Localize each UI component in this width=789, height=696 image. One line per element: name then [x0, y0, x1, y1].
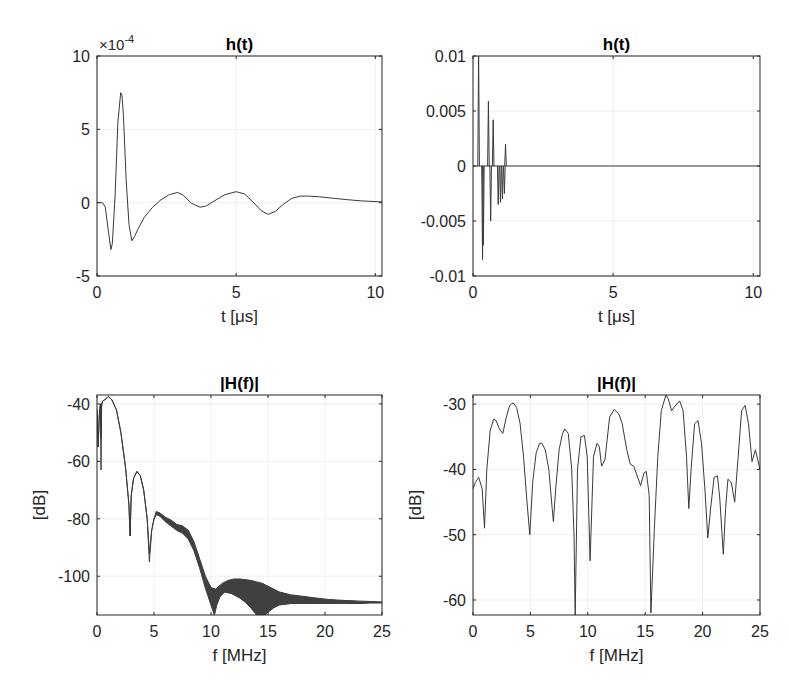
- x-tick-label: 25: [373, 623, 391, 640]
- stem: [497, 166, 499, 205]
- subplot-title: h(t): [603, 35, 630, 54]
- x-tick-label: 10: [202, 623, 220, 640]
- x-tick-label: 5: [232, 284, 241, 301]
- subplot-title: h(t): [226, 35, 253, 54]
- y-tick-label: -40: [443, 461, 466, 478]
- subplot-top-right: 0510-0.01-0.00500.0050.01h(t)t [μs]: [421, 35, 763, 326]
- x-axis-label: f [MHz]: [213, 646, 267, 665]
- y-tick-label: -50: [443, 527, 466, 544]
- subplot-bottom-right: 0510152025-60-50-40-30|H(f)|f [MHz][dB]: [406, 374, 769, 665]
- y-tick-label: -0.01: [430, 268, 467, 285]
- x-tick-label: 20: [316, 623, 334, 640]
- stem: [492, 120, 494, 166]
- stem: [488, 101, 490, 166]
- subplot-bottom-left: 0510152025-100-80-60-40|H(f)|f [MHz][dB]: [30, 374, 391, 665]
- x-axis-label: t [μs]: [598, 307, 635, 326]
- y-tick-label: 0.005: [426, 103, 466, 120]
- subplot-title: |H(f)|: [597, 374, 636, 393]
- y-tick-label: -60: [67, 453, 90, 470]
- x-tick-label: 5: [526, 623, 535, 640]
- y-tick-label: -100: [58, 568, 90, 585]
- x-axis-label: t [μs]: [221, 307, 258, 326]
- series-line: [97, 93, 382, 250]
- y-tick-label: 5: [81, 121, 90, 138]
- y-tick-label: -5: [76, 268, 90, 285]
- subplot-title: |H(f)|: [220, 374, 259, 393]
- x-axis-label: f [MHz]: [590, 646, 644, 665]
- y-tick-label: 0: [81, 195, 90, 212]
- plot-area: [473, 395, 760, 615]
- figure: 0510-50510h(t)t [μs]×10-4 0510-0.01-0.00…: [0, 0, 789, 696]
- x-tick-label: 0: [469, 623, 478, 640]
- y-tick-label: 0.01: [435, 48, 466, 65]
- x-tick-label: 0: [93, 623, 102, 640]
- x-tick-label: 5: [150, 623, 159, 640]
- x-tick-label: 20: [694, 623, 712, 640]
- x-tick-label: 25: [751, 623, 769, 640]
- stem: [504, 166, 506, 194]
- stem: [490, 166, 492, 221]
- plot-area: [97, 397, 382, 615]
- y-tick-label: -60: [443, 592, 466, 609]
- x-tick-label: 10: [744, 284, 762, 301]
- x-tick-label: 10: [579, 623, 597, 640]
- y-tick-label: -80: [67, 511, 90, 528]
- axes-box: [473, 395, 760, 615]
- y-tick-label: -0.005: [421, 213, 466, 230]
- x-tick-label: 0: [93, 284, 102, 301]
- x-tick-label: 15: [636, 623, 654, 640]
- stem: [478, 51, 480, 167]
- series-line: [97, 397, 382, 602]
- stem: [500, 166, 502, 202]
- y-tick-label: 0: [457, 158, 466, 175]
- stem: [505, 144, 507, 166]
- plot-area: [97, 93, 382, 250]
- x-tick-label: 0: [469, 284, 478, 301]
- x-tick-label: 15: [259, 623, 277, 640]
- y-exponent-label: ×10-4: [99, 33, 134, 53]
- y-axis-label: [dB]: [30, 490, 49, 520]
- y-axis-label: [dB]: [406, 490, 425, 520]
- plot-area: [473, 51, 760, 260]
- y-tick-label: -40: [67, 396, 90, 413]
- subplot-top-left: 0510-50510h(t)t [μs]×10-4: [72, 33, 384, 326]
- series-line: [473, 395, 760, 615]
- x-tick-label: 5: [609, 284, 618, 301]
- axes-box: [97, 56, 382, 276]
- x-tick-label: 10: [366, 284, 384, 301]
- y-tick-label: -30: [443, 396, 466, 413]
- stem: [502, 166, 504, 199]
- y-tick-label: 10: [72, 48, 90, 65]
